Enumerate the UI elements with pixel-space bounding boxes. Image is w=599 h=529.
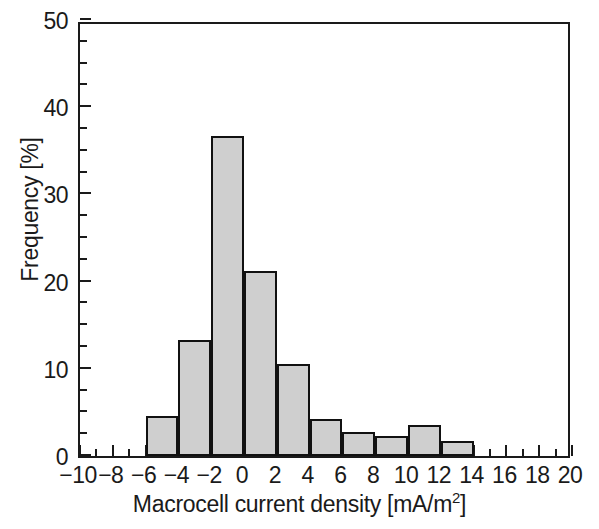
histogram-bar [146, 416, 179, 456]
histogram-bar [211, 136, 244, 456]
x-axis-title-exponent: 2 [452, 489, 460, 506]
x-axis-minor-tick [555, 449, 557, 456]
y-axis-minor-tick [80, 40, 87, 42]
histogram-bar [310, 419, 343, 456]
histogram-bar [277, 364, 310, 456]
y-axis-title: Frequency [%] [17, 30, 44, 390]
y-axis-major-tick [80, 454, 91, 456]
y-axis-minor-tick [80, 301, 87, 303]
y-axis-minor-tick [80, 258, 87, 260]
y-axis-major-tick [80, 280, 91, 282]
y-axis-tick-label: 20 [8, 272, 68, 295]
y-axis-minor-tick [80, 345, 87, 347]
y-axis-minor-tick [80, 149, 87, 151]
x-axis-minor-tick [522, 449, 524, 456]
histogram-bar [441, 441, 474, 456]
y-axis-minor-tick [80, 171, 87, 173]
y-axis-minor-tick [80, 432, 87, 434]
histogram-figure: Frequency [%] 01020304050 −10−8−6−4−2024… [0, 0, 599, 529]
y-axis-minor-tick [80, 323, 87, 325]
histogram-bar [408, 425, 441, 456]
x-axis-minor-tick [128, 449, 130, 456]
y-axis-major-tick [80, 192, 91, 194]
x-axis-title: Macrocell current density [mA/m2] [0, 489, 599, 518]
x-axis-title-base: Macrocell current density [mA/m [133, 491, 452, 517]
y-axis-major-tick [80, 105, 91, 107]
x-axis-minor-tick [95, 449, 97, 456]
y-axis-minor-tick [80, 127, 87, 129]
x-axis-title-tail: ] [460, 491, 466, 517]
y-axis-minor-tick [80, 214, 87, 216]
y-axis-minor-tick [80, 62, 87, 64]
x-axis-major-tick [571, 445, 573, 456]
x-axis-major-tick [112, 445, 114, 456]
x-axis-minor-tick [489, 449, 491, 456]
x-axis-major-tick [505, 445, 507, 456]
histogram-bar [244, 271, 277, 456]
x-axis-major-tick [538, 445, 540, 456]
x-axis-major-tick [79, 445, 81, 456]
figure-caption [0, 519, 599, 529]
plot-area [78, 22, 570, 458]
y-axis-tick-label: 40 [8, 97, 68, 120]
y-axis-tick-label: 10 [8, 359, 68, 382]
y-axis-major-tick [80, 367, 91, 369]
histogram-bar [342, 432, 375, 456]
y-axis-minor-tick [80, 389, 87, 391]
y-axis-tick-label: 30 [8, 184, 68, 207]
histogram-bar [375, 436, 408, 456]
y-axis-minor-tick [80, 410, 87, 412]
y-axis-major-tick [80, 18, 91, 20]
histogram-bar [178, 340, 211, 456]
y-axis-tick-label: 50 [8, 10, 68, 33]
y-axis-minor-tick [80, 236, 87, 238]
y-axis-minor-tick [80, 83, 87, 85]
x-axis-tick-label: 20 [548, 464, 592, 487]
